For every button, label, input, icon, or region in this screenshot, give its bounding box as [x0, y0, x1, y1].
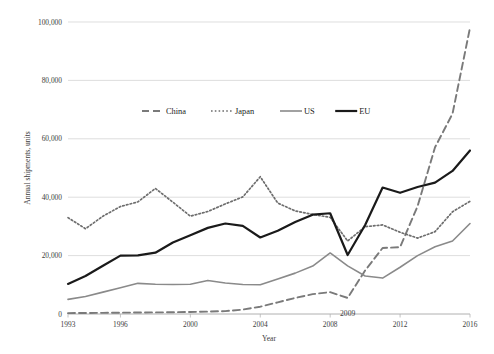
x-axis-title: Year [262, 334, 276, 343]
legend-item-japan-label: Japan [235, 107, 255, 116]
x-tick-label-1996: 1996 [113, 320, 128, 329]
x-tick-label-2000: 2000 [183, 320, 198, 329]
y-axis-title: Annual shipments, units [23, 131, 32, 205]
y-tick-label-60000: 60,000 [42, 134, 63, 143]
chart-container: 020,00040,00060,00080,000100,00019931996… [0, 0, 494, 354]
series-line-eu [68, 150, 470, 283]
x-tick-label-2012: 2012 [393, 320, 408, 329]
x-tick-label-2016: 2016 [463, 320, 478, 329]
legend-item-eu-label: EU [359, 107, 370, 116]
x-tick-label-2004: 2004 [253, 320, 268, 329]
y-tick-label-0: 0 [58, 310, 62, 319]
series-line-japan [68, 177, 470, 241]
legend-item-china-label: China [166, 107, 186, 116]
legend-item-us-label: US [304, 107, 315, 116]
y-tick-label-40000: 40,000 [42, 193, 63, 202]
y-tick-label-20000: 20,000 [42, 251, 63, 260]
x-tick-label-2008: 2008 [323, 320, 338, 329]
line-chart: 020,00040,00060,00080,000100,00019931996… [0, 0, 494, 354]
series-line-china [68, 28, 470, 313]
x-tick-label-1993: 1993 [61, 320, 76, 329]
y-tick-label-80000: 80,000 [42, 76, 63, 85]
crisis-year-annotation: 2009 [340, 309, 355, 318]
y-tick-label-100000: 100,000 [38, 18, 62, 27]
